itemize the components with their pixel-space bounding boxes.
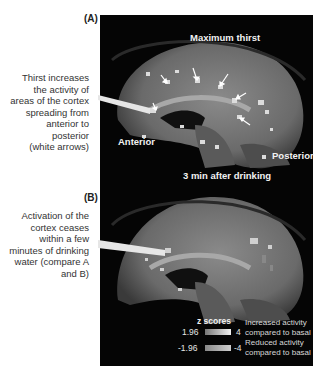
callout-b-line: cortex ceases xyxy=(0,222,89,234)
callout-a-line: (white arrows) xyxy=(0,141,89,153)
legend-bar-reduced xyxy=(205,345,231,351)
callout-b-line: Activation of the xyxy=(0,210,89,222)
panel-label-a: (A) xyxy=(84,13,98,24)
panel-b-title: 3 min after drinking xyxy=(183,170,271,181)
panel-a-title: Maximum thirst xyxy=(190,32,260,43)
legend-bar-increased xyxy=(205,329,231,335)
callout-a-line: spreading from xyxy=(0,107,89,119)
callout-text-a: Thirst increases the activity of areas o… xyxy=(0,72,89,153)
callout-a-line: anterior to xyxy=(0,118,89,130)
legend-increased-high: 4 xyxy=(236,327,241,337)
anterior-label: Anterior xyxy=(118,136,155,147)
callout-text-b: Activation of the cortex ceases within a… xyxy=(0,210,89,279)
legend-increased-low: 1.96 xyxy=(182,327,199,337)
legend-increased-desc: Increased activity compared to basal xyxy=(245,318,311,338)
callout-b-line: water (compare A xyxy=(0,256,89,268)
legend-reduced-low: -1.96 xyxy=(178,343,197,353)
callout-a-line: Thirst increases xyxy=(0,72,89,84)
callout-a-line: areas of the cortex xyxy=(0,95,89,107)
callout-b-line: within a few xyxy=(0,233,89,245)
brain-panel-b xyxy=(112,197,305,324)
callout-a-line: the activity of xyxy=(0,84,89,96)
legend-reduced-high: -4 xyxy=(234,343,242,353)
legend-reduced-desc: Reduced activity compared to basal xyxy=(245,338,311,358)
callout-b-line: minutes of drinking xyxy=(0,245,89,257)
panel-label-b: (B) xyxy=(84,192,98,203)
posterior-label: Posterior xyxy=(272,150,314,161)
legend-title: z scores xyxy=(197,316,231,326)
callout-a-line: posterior xyxy=(0,130,89,142)
callout-b-line: and B) xyxy=(0,268,89,280)
